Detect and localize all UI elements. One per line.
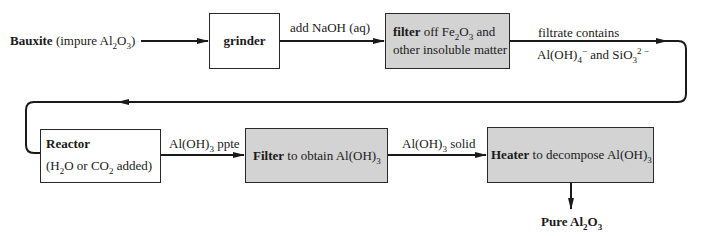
edge-label-add-naoh: add NaOH (aq) <box>290 20 370 36</box>
node-grinder: grinder <box>209 13 280 69</box>
input-bauxite-label: Bauxite (impure Al2O3) <box>10 33 135 49</box>
edge-label-filtrate-contains: filtrate contains <box>538 25 619 41</box>
node-heater: Heater to decompose Al(OH)3 <box>487 127 654 183</box>
edge-label-aloh3-solid: Al(OH)3 solid <box>402 136 475 152</box>
output-pure-alumina-label: Pure Al2O3 <box>541 214 602 230</box>
node-reactor: Reactor (H2O or CO2 added) <box>40 129 161 183</box>
edge-label-aloh3-ppte: Al(OH)3 ppte <box>169 136 240 152</box>
edge-label-filtrate-ions: Al(OH)4− and SiO32 − <box>537 47 649 63</box>
node-filter-insolubles: filter off Fe2O3 and other insoluble mat… <box>385 13 510 69</box>
node-filter-aloh3: Filter to obtain Al(OH)3 <box>245 128 388 183</box>
process-flow-diagram: Bauxite (impure Al2O3) grinder add NaOH … <box>0 0 706 236</box>
